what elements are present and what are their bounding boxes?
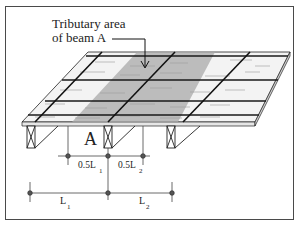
title-line-2: of beam A [52,30,107,45]
dimension-lines [30,126,172,202]
dim-full-left-label: L [60,195,66,206]
dim-half-left-sub: 1 [99,167,103,175]
dim-full-right-label: L [139,195,145,206]
tributary-area-diagram: Tributary area of beam A A 0.5L 1 0.5L 2… [0,0,300,228]
posts [27,126,200,148]
post-right [167,126,200,148]
dim-half-right-sub: 2 [139,167,143,175]
dim-half-left-label: 0.5L [78,160,96,170]
dim-half-right-label: 0.5L [118,160,136,170]
beam-a-label: A [84,129,97,149]
dim-full-left-sub: 1 [67,203,71,211]
title-line-1: Tributary area [52,16,126,31]
dim-full-right-sub: 2 [146,203,150,211]
post-a [104,126,135,148]
post-left [27,126,58,148]
